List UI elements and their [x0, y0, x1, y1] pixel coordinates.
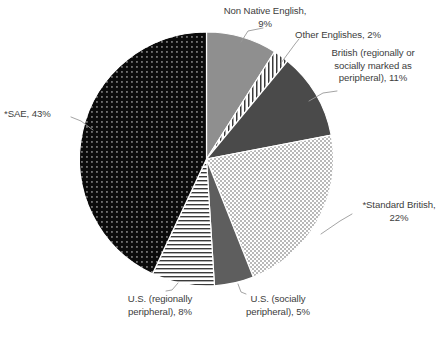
slice-label-sae: *SAE, 43%: [4, 108, 76, 121]
pie-slices: [80, 32, 334, 286]
slice-label-other-englishes: Other Englishes, 2%: [295, 29, 435, 42]
slice-label-non-native-english: Non Native English, 9%: [206, 5, 324, 30]
leader-line-us-regionally-peripheral: [166, 283, 178, 291]
slice-label-us-regionally-peripheral: U.S. (regionally peripheral), 8%: [101, 293, 219, 318]
slice-label-standard-british: *Standard British, 22%: [355, 199, 443, 224]
pie-chart: Non Native English, 9% Other Englishes, …: [0, 0, 445, 337]
leader-line-standard-british: [321, 214, 352, 234]
leader-line-other-englishes: [281, 39, 299, 63]
slice-label-us-socially-peripheral: U.S. (socially peripheral), 5%: [222, 293, 334, 318]
slice-label-british-peripheral: British (regionally or socially marked a…: [305, 47, 441, 85]
